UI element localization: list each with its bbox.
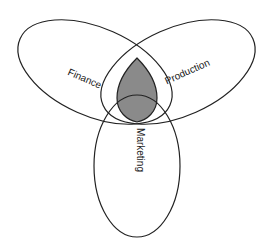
- venn-diagram: Finance Production Marketing: [0, 0, 272, 247]
- finance-label: Finance: [66, 66, 103, 91]
- production-label: Production: [163, 57, 211, 86]
- finance-ellipse: [2, 0, 188, 146]
- marketing-label: Marketing: [135, 128, 146, 172]
- triple-intersection-region: [117, 58, 157, 122]
